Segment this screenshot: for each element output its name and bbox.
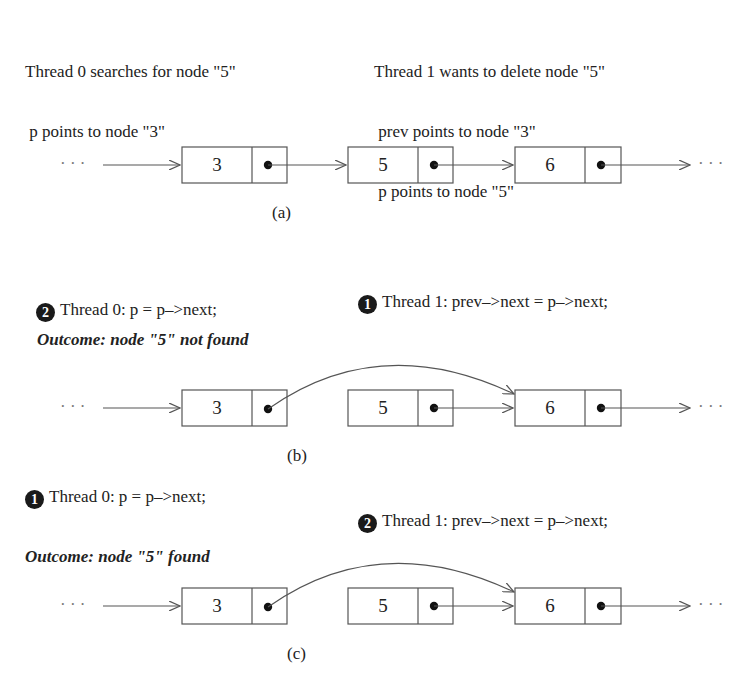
thread0-code-b: Thread 0: p = p–>next; bbox=[60, 300, 217, 319]
thread1-code-b: Thread 1: prev–>next = p–>next; bbox=[382, 292, 608, 311]
list-row-c bbox=[103, 563, 690, 624]
node-3-b bbox=[182, 390, 287, 426]
node-value-3-b: 3 bbox=[210, 398, 224, 418]
list-row-a bbox=[103, 147, 690, 183]
outcome-b: Outcome: node "5" not found bbox=[37, 330, 249, 350]
ellipsis-right-b: · · · bbox=[698, 397, 723, 417]
ellipsis-left-a: · · · bbox=[60, 154, 85, 174]
thread1-code-c: Thread 1: prev–>next = p–>next; bbox=[382, 511, 608, 530]
caption-a: (a) bbox=[272, 203, 291, 223]
node-value-3-a: 3 bbox=[210, 155, 224, 175]
list-row-b bbox=[103, 365, 690, 426]
ellipsis-right-c: · · · bbox=[698, 595, 723, 615]
node-3-c bbox=[182, 588, 287, 624]
thread0-code-c: Thread 0: p = p–>next; bbox=[49, 487, 206, 506]
step-badge-icon: 1 bbox=[25, 490, 44, 509]
thread1-step-c: 2Thread 1: prev–>next = p–>next; bbox=[358, 511, 608, 533]
node-value-6-b: 6 bbox=[543, 398, 557, 418]
caption-c: (c) bbox=[287, 644, 306, 664]
step-badge-icon: 1 bbox=[358, 295, 377, 314]
step-badge-icon: 2 bbox=[36, 303, 55, 322]
thread0-step-c: 1Thread 0: p = p–>next; bbox=[25, 487, 206, 509]
thread0-step-b: 2Thread 0: p = p–>next; bbox=[36, 300, 217, 322]
ellipsis-left-b: · · · bbox=[60, 397, 85, 417]
node-value-5-b: 5 bbox=[376, 398, 390, 418]
node-value-6-c: 6 bbox=[543, 596, 557, 616]
node-value-5-a: 5 bbox=[376, 155, 390, 175]
node-value-6-a: 6 bbox=[543, 155, 557, 175]
outcome-c: Outcome: node "5" found bbox=[25, 547, 210, 567]
node-value-3-c: 3 bbox=[210, 596, 224, 616]
step-badge-icon: 2 bbox=[358, 514, 377, 533]
ellipsis-left-c: · · · bbox=[60, 595, 85, 615]
caption-b: (b) bbox=[287, 446, 307, 466]
node-value-5-c: 5 bbox=[376, 596, 390, 616]
ellipsis-right-a: · · · bbox=[698, 154, 723, 174]
thread1-step-b: 1Thread 1: prev–>next = p–>next; bbox=[358, 292, 608, 314]
